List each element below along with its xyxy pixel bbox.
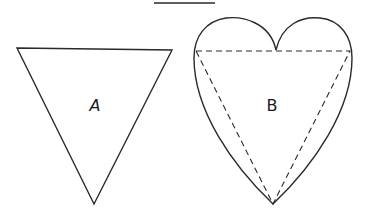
triangle-a-outline: [17, 48, 172, 204]
label-b: B: [267, 96, 278, 115]
diagram-canvas: A B: [0, 0, 368, 220]
label-a: A: [89, 96, 101, 115]
shape-a: A: [17, 48, 172, 204]
inscribed-triangle-b: [196, 51, 350, 204]
shape-b: B: [194, 18, 352, 204]
